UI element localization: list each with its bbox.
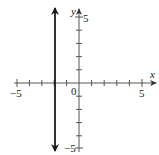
x-axis-label: x [149, 68, 155, 80]
y-min-label: −5 [64, 142, 76, 154]
y-axis [75, 9, 83, 152]
x-max-label: 5 [139, 87, 145, 99]
y-axis-label: y [70, 5, 76, 17]
x-min-label: −5 [10, 87, 22, 99]
y-max-label: 5 [83, 12, 89, 24]
origin-label: 0 [71, 85, 77, 97]
coordinate-plane: x y 0 −5 5 5 −5 [0, 0, 159, 155]
x-axis [14, 79, 156, 87]
